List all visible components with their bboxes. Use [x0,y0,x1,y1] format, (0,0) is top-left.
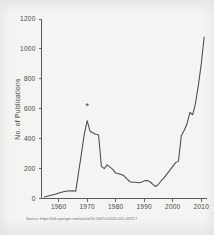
x-tick-label: 2000 [165,203,181,210]
publications-line-chart-figure: 020040060080010001200 196019701980199020… [0,0,214,235]
x-tick-label: 1970 [79,203,95,210]
x-tick-label: 1960 [51,203,67,210]
x-axis-ticks: 196019701980199020002010 [51,199,209,211]
y-tick-label: 600 [24,105,36,112]
x-tick-label: 2010 [194,203,210,210]
series-line-publications [44,37,204,197]
asterisk-annotation: * [85,101,89,111]
chart-plot-area: 020040060080010001200 196019701980199020… [0,0,214,214]
y-tick-label: 0 [32,195,36,202]
y-tick-label: 400 [24,135,36,142]
x-tick-label: 1980 [108,203,124,210]
y-tick-label: 1000 [20,45,36,52]
y-tick-label: 1200 [20,15,36,22]
y-axis-title: No. of Publications [14,78,21,140]
chart-annotations: * [85,101,89,111]
y-tick-label: 800 [24,75,36,82]
x-tick-label: 1990 [136,203,152,210]
y-tick-label: 200 [24,165,36,172]
source-note: Source: https://link.springer.com/articl… [26,216,206,222]
y-axis-ticks: 020040060080010001200 [20,15,41,202]
